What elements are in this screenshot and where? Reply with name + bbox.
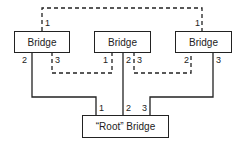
port-label: 3 bbox=[137, 56, 142, 65]
blocked-link-center-right bbox=[134, 52, 191, 73]
port-label: 1 bbox=[45, 19, 50, 28]
port-label: 2 bbox=[126, 56, 131, 65]
port-label: 2 bbox=[126, 104, 131, 113]
bridge-right-label: Bridge bbox=[189, 37, 218, 48]
port-label: 3 bbox=[55, 56, 60, 65]
bridge-left: Bridge bbox=[14, 31, 70, 53]
port-label: 2 bbox=[184, 56, 189, 65]
port-label: 1 bbox=[103, 56, 108, 65]
port-label: 1 bbox=[99, 104, 104, 113]
root-bridge: “Root” Bridge bbox=[82, 115, 169, 138]
port-label: 1 bbox=[195, 19, 200, 28]
bridge-center: Bridge bbox=[94, 31, 151, 53]
blocked-link-top bbox=[42, 8, 202, 31]
port-label: 2 bbox=[22, 56, 27, 65]
bridge-center-label: Bridge bbox=[108, 37, 137, 48]
bridge-left-label: Bridge bbox=[28, 37, 57, 48]
port-label: 3 bbox=[142, 104, 147, 113]
link-left-root bbox=[32, 52, 96, 115]
port-label: 3 bbox=[216, 56, 221, 65]
link-right-root bbox=[150, 52, 213, 115]
root-bridge-label: “Root” Bridge bbox=[96, 121, 155, 132]
bridge-right: Bridge bbox=[175, 31, 232, 53]
